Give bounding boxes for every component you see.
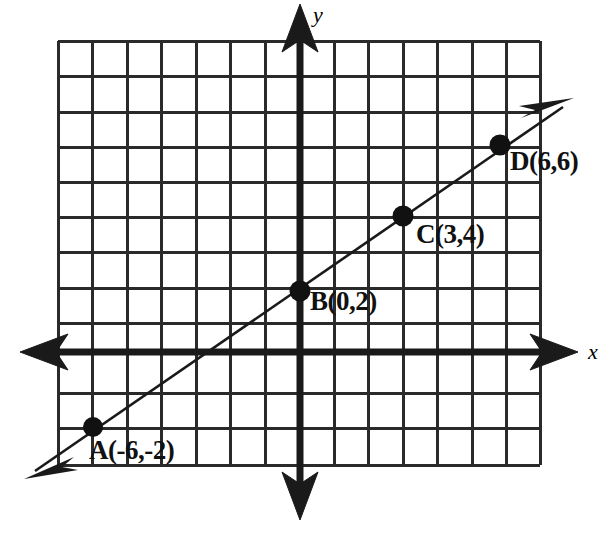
data-point-A[interactable]	[83, 417, 103, 437]
data-point-B[interactable]	[290, 281, 311, 302]
point-label-D: D(6,6)	[510, 148, 578, 175]
y-axis-label: y	[313, 4, 323, 26]
point-label-B: B(0,2)	[310, 288, 377, 315]
point-label-C: C(3,4)	[416, 221, 484, 248]
data-point-D[interactable]	[490, 135, 511, 156]
coordinate-plane-figure: y x A(-6,-2) B(0,2) C(3,4) D(6,6)	[0, 0, 611, 536]
point-label-A: A(-6,-2)	[89, 437, 174, 464]
x-axis-label: x	[588, 341, 598, 363]
line-arrowhead-upper-right	[519, 98, 574, 118]
data-point-C[interactable]	[393, 206, 414, 227]
